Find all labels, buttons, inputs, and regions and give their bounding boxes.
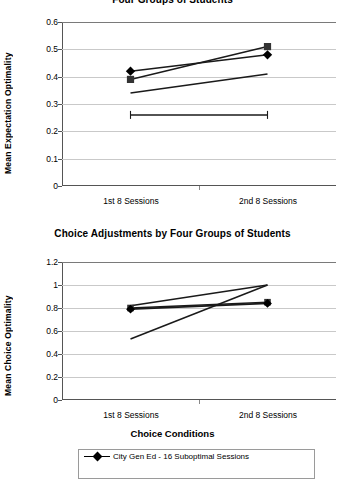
choice-ytickmark-0.8 — [58, 308, 62, 309]
ytickmark-0.2 — [58, 131, 62, 132]
choice-chart-ylabel: Mean Choice Optimality — [3, 276, 13, 396]
choice-ytickmark-0.2 — [58, 377, 62, 378]
ytick-label-0.1: 0.1 — [26, 155, 58, 164]
ytick-label-0.2: 0.2 — [26, 127, 58, 136]
choice-ytick-label-0.6: 0.6 — [26, 327, 58, 336]
expectation-series-layer — [62, 22, 336, 186]
choice-plot-area — [62, 262, 336, 400]
xtickmark-mid-top — [199, 186, 200, 190]
choice-ytick-label-0.4: 0.4 — [26, 350, 58, 359]
xtick-label-1st-top: 1st 8 Sessions — [76, 196, 186, 206]
choice-ytick-label-0: 0 — [26, 396, 58, 405]
ytickmark-0.3 — [58, 104, 62, 105]
ytick-label-0.5: 0.5 — [26, 45, 58, 54]
expectation-chart-panel: Four Groups of Students Mean Expectation… — [0, 0, 345, 220]
legend-item-label: City Gen Ed - 16 Suboptimal Sessions — [110, 452, 249, 461]
ytickmark-0 — [58, 186, 62, 187]
choice-ytick-label-0.2: 0.2 — [26, 373, 58, 382]
choice-xtick-label-2nd: 2nd 8 Sessions — [213, 410, 323, 420]
ytick-label-0.6: 0.6 — [26, 18, 58, 27]
choice-chart-title: Choice Adjustments by Four Groups of Stu… — [0, 228, 345, 239]
ytickmark-0.1 — [58, 159, 62, 160]
choice-xtick-label-1st: 1st 8 Sessions — [76, 410, 186, 420]
choice-ytickmark-1.2 — [58, 262, 62, 263]
choice-ytickmark-0 — [58, 400, 62, 401]
choice-chart-xlabel: Choice Conditions — [0, 428, 345, 439]
xtickmark-mid-bottom — [199, 400, 200, 404]
xtick-label-2nd-top: 2nd 8 Sessions — [213, 196, 323, 206]
series-4-line — [131, 111, 268, 119]
ytickmark-0.5 — [58, 49, 62, 50]
expectation-plot-area — [62, 22, 336, 186]
ytick-label-0: 0 — [26, 182, 58, 191]
choice-ytickmark-0.4 — [58, 354, 62, 355]
choice-series-2-line — [127, 299, 271, 311]
legend-item[interactable]: City Gen Ed - 16 Suboptimal Sessions — [79, 450, 314, 463]
choice-ytick-label-1: 1 — [26, 281, 58, 290]
expectation-chart-title: Four Groups of Students — [0, 0, 345, 5]
expectation-chart-ylabel: Mean Expectation Optimality — [3, 34, 13, 174]
choice-series-layer — [62, 262, 336, 400]
choice-ytickmark-1 — [58, 285, 62, 286]
choice-ytick-label-1.2: 1.2 — [26, 258, 58, 267]
choice-series-4-line — [131, 285, 268, 339]
legend-diamond-icon — [84, 451, 110, 462]
series-1-line — [126, 50, 272, 76]
ytick-label-0.4: 0.4 — [26, 73, 58, 82]
ytick-label-0.3: 0.3 — [26, 100, 58, 109]
chart-legend: City Gen Ed - 16 Suboptimal Sessions — [78, 449, 315, 479]
choice-ytick-label-0.8: 0.8 — [26, 304, 58, 313]
choice-ytickmark-0.6 — [58, 331, 62, 332]
ytickmark-0.6 — [58, 22, 62, 23]
series-3-line — [131, 74, 268, 93]
choice-chart-panel: Choice Adjustments by Four Groups of Stu… — [0, 228, 345, 464]
ytickmark-0.4 — [58, 77, 62, 78]
